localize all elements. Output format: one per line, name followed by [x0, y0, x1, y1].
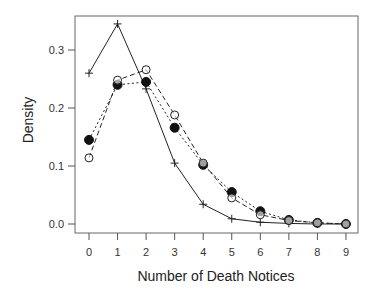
x-tick-label: 0	[86, 246, 92, 258]
series-line	[89, 24, 346, 224]
open-circle-marker	[114, 76, 122, 84]
x-tick-label: 7	[286, 246, 292, 258]
cross-marker	[85, 69, 93, 77]
density-line-chart: 0.00.10.20.3 0123456789 Density Number o…	[0, 0, 375, 299]
y-tick-label: 0.0	[49, 218, 64, 230]
y-axis-title: Density	[20, 97, 36, 144]
open-circle-marker	[285, 217, 293, 225]
open-circle-marker	[171, 111, 179, 119]
open-circle-marker	[342, 220, 350, 228]
open-circle-marker	[199, 159, 207, 167]
x-tick-label: 1	[114, 246, 120, 258]
x-tick-label: 6	[257, 246, 263, 258]
filled-circle-marker	[85, 135, 94, 144]
x-tick-label: 4	[200, 246, 206, 258]
x-tick-label: 2	[143, 246, 149, 258]
filled-circle-marker	[170, 123, 179, 132]
filled-circle-marker	[142, 77, 151, 86]
series-line	[89, 70, 346, 224]
plot-frame	[75, 16, 358, 233]
open-circle-marker	[256, 211, 264, 219]
x-tick-label: 9	[343, 246, 349, 258]
x-tick-label: 8	[314, 246, 320, 258]
cross-marker	[114, 20, 122, 28]
cross-marker	[199, 200, 207, 208]
y-tick-label: 0.3	[49, 44, 64, 56]
open-circle-marker	[228, 194, 236, 202]
series-cross-solid	[85, 20, 350, 228]
open-circle-marker	[313, 219, 321, 227]
series-line	[89, 82, 346, 224]
series-open-circle-dashed	[85, 66, 350, 228]
y-tick-label: 0.2	[49, 102, 64, 114]
open-circle-marker	[85, 154, 93, 162]
open-circle-marker	[142, 66, 150, 74]
series-filled-circle-dotted	[85, 77, 351, 228]
series-layer	[85, 20, 351, 229]
x-axis: 0123456789	[86, 233, 349, 258]
y-tick-label: 0.1	[49, 160, 64, 172]
cross-marker	[171, 159, 179, 167]
x-tick-label: 3	[172, 246, 178, 258]
cross-marker	[228, 215, 236, 223]
y-axis: 0.00.10.20.3	[49, 44, 75, 230]
x-axis-title: Number of Death Notices	[137, 268, 294, 284]
x-tick-label: 5	[229, 246, 235, 258]
cross-marker	[256, 218, 264, 226]
